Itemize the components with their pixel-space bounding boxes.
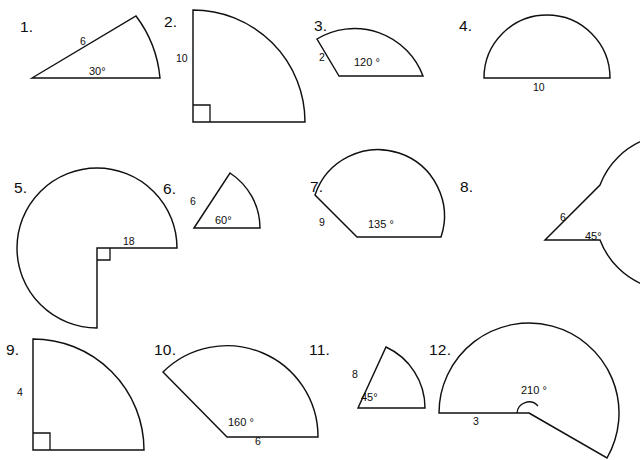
figure-2-number: 2. <box>164 14 177 30</box>
figure-10-number: 10. <box>154 342 176 358</box>
figure-8-angle-label: 45° <box>585 231 602 242</box>
figure-6-shape <box>155 155 290 265</box>
figure-1: 1. 6 30° <box>0 0 170 100</box>
figure-8-number: 8. <box>460 179 473 195</box>
figure-9-shape <box>0 325 160 460</box>
figure-9-number: 9. <box>6 342 19 358</box>
figure-3-angle-label: 120 ° <box>354 57 380 68</box>
figure-3-shape <box>310 0 450 100</box>
figure-8-radius-label: 6 <box>560 212 566 223</box>
figure-4-number: 4. <box>459 18 472 34</box>
figure-5-radius-label: 18 <box>123 236 135 247</box>
figure-4: 4. 10 <box>455 0 640 100</box>
figure-11-angle-label: 45° <box>361 392 378 403</box>
figure-12-number: 12. <box>429 342 451 358</box>
figure-6-number: 6. <box>163 181 176 197</box>
figure-1-radius-label: 6 <box>80 36 86 47</box>
figure-2-radius-label: 10 <box>176 53 188 64</box>
figure-1-shape <box>0 0 170 100</box>
figure-6-angle-label: 60° <box>215 215 232 226</box>
figure-12-angle-label: 210 ° <box>521 385 547 396</box>
figure-7-radius-label: 9 <box>319 217 325 228</box>
figure-11-number: 11. <box>309 342 330 358</box>
figure-2: 2. 10 <box>160 0 310 140</box>
figure-9-radius-label: 4 <box>17 387 23 398</box>
figure-5-number: 5. <box>14 180 27 196</box>
figure-7: 7. 9 135 ° <box>305 155 470 265</box>
figure-7-number: 7. <box>310 179 323 195</box>
figure-12: 12. 210 ° 3 <box>425 325 640 460</box>
figure-12-radius-label: 3 <box>473 416 479 427</box>
figure-9: 9. 4 <box>0 325 160 460</box>
figure-4-shape <box>455 0 640 100</box>
figure-10-radius-label: 6 <box>255 436 261 447</box>
figure-8: 8. 6 45° <box>455 155 640 320</box>
figure-6-radius-label: 6 <box>190 196 196 207</box>
figure-3: 3. 2 120 ° <box>310 0 450 100</box>
worksheet-canvas: 1. 6 30° 2. 10 3. 2 120 ° 4. 10 5. <box>0 0 640 460</box>
figure-3-radius-label: 2 <box>319 52 325 63</box>
figure-10: 10. 160 ° 6 <box>150 325 315 460</box>
figure-6: 6. 6 60° <box>155 155 290 265</box>
figure-3-number: 3. <box>314 18 327 34</box>
figure-1-angle-label: 30° <box>89 66 106 77</box>
figure-5: 5. 18 <box>0 155 175 320</box>
figure-11-radius-label: 8 <box>352 369 358 380</box>
figure-11: 11. 8 45° <box>305 325 440 435</box>
figure-7-shape <box>305 155 470 265</box>
figure-1-number: 1. <box>20 19 33 35</box>
figure-10-angle-label: 160 ° <box>228 417 254 428</box>
figure-8-shape <box>455 155 640 320</box>
figure-7-angle-label: 135 ° <box>368 219 394 230</box>
figure-2-shape <box>160 0 310 140</box>
figure-4-radius-label: 10 <box>533 82 545 93</box>
